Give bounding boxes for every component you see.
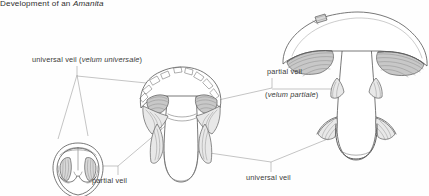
amanita-illustration: .ol { fill:none; stroke:#555; stroke-wid… (0, 0, 429, 196)
stage-egg (53, 143, 103, 196)
label-universal-veil-top-latin: velum universale (82, 55, 140, 64)
label-partial-veil-right-latin: (velum partiale) (265, 91, 318, 99)
page-title-taxon: Amanita (73, 0, 104, 8)
label-universal-veil-bottom: universal veil (246, 174, 291, 182)
page-title-prefix: Development of an (0, 0, 73, 8)
label-universal-veil-top: universal veil (velum universale) (32, 56, 142, 64)
label-universal-veil-bottom-text: universal veil (246, 173, 291, 182)
label-partial-veil-latin-text: velum partiale (268, 90, 316, 99)
stage-expanding (140, 67, 221, 182)
stage-mature (283, 12, 427, 160)
label-universal-veil-top-text: universal veil ( (32, 55, 82, 64)
label-partial-veil-latin-close: ) (316, 90, 319, 99)
page-title: Development of an Amanita (0, 0, 104, 9)
amanita-development-figure: .ol { fill:none; stroke:#555; stroke-wid… (0, 0, 429, 196)
label-partial-veil-right-text: partial veil (267, 67, 302, 76)
label-partial-veil-bottom: partial veil (92, 177, 127, 185)
label-partial-veil-right: partial veil (267, 68, 302, 76)
label-partial-veil-bottom-text: partial veil (92, 176, 127, 185)
label-universal-veil-top-close: ) (140, 55, 143, 64)
